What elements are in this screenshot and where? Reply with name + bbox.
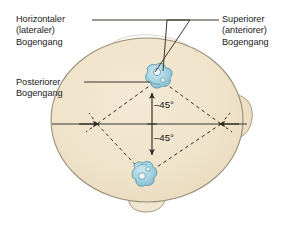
labyrinth-vestibule-lower [146, 167, 151, 172]
left-labyrinth [132, 162, 157, 187]
label-horizontal-canal: Horizontaler (lateraler) Bogengang [16, 14, 65, 48]
label-superior-line2: (anteriorer) [222, 25, 269, 36]
label-horizontal-line3: Bogengang [16, 37, 65, 48]
labyrinth-canal-ring-lower [139, 173, 146, 180]
label-posterior-line2: Bogengang [16, 88, 63, 99]
label-posterior-line1: Posteriorer [16, 77, 63, 88]
label-superior-line3: Bogengang [222, 37, 269, 48]
angle-label-lower: –45° [154, 132, 174, 143]
figure-root: Horizontaler (lateraler) Bogengang Poste… [0, 0, 299, 229]
label-superior-line1: Superiorer [222, 14, 269, 25]
label-superior-canal: Superiorer (anteriorer) Bogengang [222, 14, 269, 48]
label-posterior-canal: Posteriorer Bogengang [16, 77, 63, 100]
labyrinth-vestibule-upper [161, 78, 166, 83]
label-horizontal-line2: (lateraler) [16, 25, 65, 36]
label-horizontal-line1: Horizontaler [16, 14, 65, 25]
angle-label-upper: –45° [154, 99, 174, 110]
